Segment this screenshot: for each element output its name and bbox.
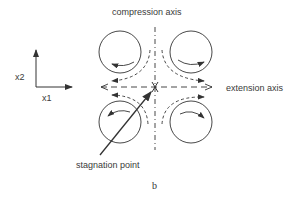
stagnation-point-label: stagnation point (76, 160, 140, 170)
x2-label: x2 (15, 72, 25, 82)
coordinate-axes (36, 50, 72, 87)
flow-diagram (0, 0, 305, 206)
x1-label: x1 (42, 93, 52, 103)
compression-axis-label: compression axis (112, 7, 182, 17)
extension-axis-label: extension axis (226, 83, 283, 93)
caption: b (152, 180, 157, 191)
